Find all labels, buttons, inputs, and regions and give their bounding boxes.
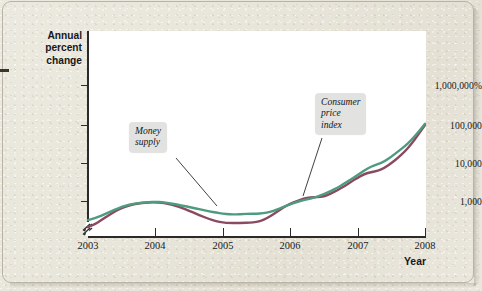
series-plot bbox=[0, 0, 482, 291]
annotation-money-supply: Money supply bbox=[129, 122, 167, 152]
annotation-consumer-price-index: Consumer price index bbox=[315, 93, 366, 134]
figure-container: Annual percent change 1,000,000% 100,000… bbox=[0, 0, 482, 291]
